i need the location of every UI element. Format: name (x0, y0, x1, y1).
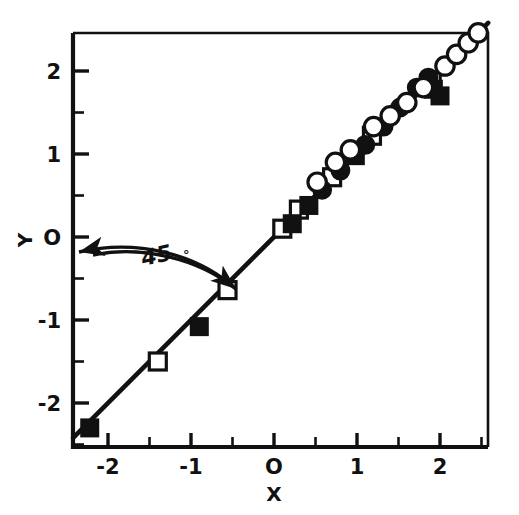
data-point-filled-square (284, 215, 301, 232)
data-point-open-circle (398, 93, 416, 111)
x-axis-title: X (266, 482, 282, 506)
y-axis-title: Y (13, 232, 37, 248)
y-tick-label: 2 (46, 60, 61, 84)
x-tick-label: -1 (179, 455, 202, 479)
chart-figure: -2-1O12-2-1O12 45° XY (0, 0, 519, 515)
y-tick-label: -1 (38, 309, 61, 333)
y-tick-label: 1 (46, 143, 61, 167)
data-point-filled-square (300, 197, 317, 214)
degree-symbol: ° (183, 247, 190, 262)
x-tick-label: O (265, 455, 283, 479)
axis-ticks (73, 71, 482, 447)
x-tick-label: 2 (433, 455, 448, 479)
x-tick-label: -2 (96, 455, 119, 479)
data-point-open-circle (469, 24, 487, 42)
data-point-open-circle (381, 107, 399, 125)
data-markers (81, 24, 487, 437)
data-point-filled-square (81, 419, 98, 436)
data-point-open-circle (364, 117, 382, 135)
scatter-plot-canvas: -2-1O12-2-1O12 45° XY (0, 0, 519, 515)
data-point-open-square (149, 353, 166, 370)
y-tick-label: -2 (38, 392, 61, 416)
data-point-open-circle (414, 78, 432, 96)
axis-titles: XY (13, 232, 282, 506)
angle-annotation: 45° (79, 240, 236, 289)
y-tick-label: O (43, 226, 61, 250)
x-tick-label: 1 (350, 455, 365, 479)
data-point-filled-square (432, 87, 449, 104)
angle-annotation-text: 45 (138, 240, 174, 271)
data-point-open-circle (308, 173, 326, 191)
data-point-filled-square (191, 318, 208, 335)
data-point-open-circle (341, 141, 359, 159)
